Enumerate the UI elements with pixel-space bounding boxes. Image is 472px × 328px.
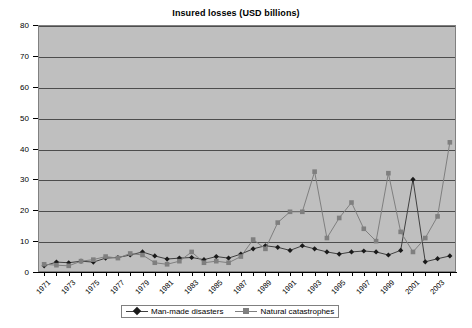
x-tick-mark	[327, 272, 328, 276]
x-tick-label: 1993	[300, 278, 323, 301]
x-tick-label: 1999	[373, 278, 396, 301]
x-tick-mark	[438, 272, 439, 276]
data-point	[324, 249, 329, 254]
data-point	[287, 248, 292, 253]
data-point	[103, 254, 108, 259]
x-tick-label: 1997	[349, 278, 372, 301]
data-point	[54, 263, 59, 268]
x-tick-mark	[265, 272, 266, 276]
x-tick-mark	[352, 272, 353, 276]
data-point	[140, 253, 145, 258]
x-tick-label: 1979	[128, 278, 151, 301]
data-point	[312, 246, 317, 251]
legend-label-natural: Natural catastrophes	[260, 307, 334, 316]
x-tick-mark	[315, 272, 316, 276]
data-point	[337, 216, 342, 221]
y-axis: 01020304050607080	[0, 25, 34, 272]
y-tick-label: 10	[20, 237, 29, 246]
data-point	[374, 239, 379, 244]
data-point	[312, 169, 317, 174]
x-tick-mark	[401, 272, 402, 276]
x-tick-label: 1995	[324, 278, 347, 301]
data-point	[325, 236, 330, 241]
data-point	[165, 262, 170, 267]
data-point	[189, 250, 194, 255]
x-tick-mark	[130, 272, 131, 276]
y-tick-label: 70	[20, 51, 29, 60]
data-point	[300, 243, 305, 248]
data-point	[42, 262, 47, 267]
y-tick-label: 50	[20, 113, 29, 122]
x-tick-mark	[81, 272, 82, 276]
data-point	[79, 259, 84, 264]
x-tick-mark	[229, 272, 230, 276]
data-point	[251, 246, 256, 251]
x-tick-mark	[106, 272, 107, 276]
y-tick-label: 80	[20, 21, 29, 30]
x-tick-mark	[302, 272, 303, 276]
data-point	[66, 264, 71, 269]
data-point	[349, 200, 354, 205]
x-tick-mark	[167, 272, 168, 276]
data-point	[448, 140, 453, 145]
x-tick-mark	[290, 272, 291, 276]
y-tick-label: 40	[20, 144, 29, 153]
x-tick-label: 1987	[226, 278, 249, 301]
diamond-icon	[126, 307, 148, 316]
x-tick-mark	[413, 272, 414, 276]
data-point	[128, 251, 133, 256]
x-tick-mark	[450, 272, 451, 276]
x-tick-mark	[143, 272, 144, 276]
series-line-natural	[44, 142, 450, 266]
legend-item-natural[interactable]: Natural catastrophes	[235, 307, 334, 316]
x-tick-label: 1981	[152, 278, 175, 301]
data-point	[202, 260, 207, 265]
data-point	[91, 257, 96, 262]
data-point	[177, 259, 182, 264]
x-tick-mark	[388, 272, 389, 276]
chart-legend: Man-made disasters Natural catastrophes	[121, 305, 339, 318]
x-tick-mark	[93, 272, 94, 276]
x-tick-label: 1977	[103, 278, 126, 301]
data-point	[411, 250, 416, 255]
x-tick-mark	[216, 272, 217, 276]
data-point	[300, 209, 305, 214]
data-point	[386, 252, 391, 257]
data-point	[251, 237, 256, 242]
data-point	[349, 249, 354, 254]
data-point	[152, 260, 157, 265]
legend-item-man-made[interactable]: Man-made disasters	[126, 307, 223, 316]
x-tick-mark	[364, 272, 365, 276]
data-point	[361, 226, 366, 231]
x-axis-line	[38, 272, 457, 273]
x-tick-label: 1989	[250, 278, 273, 301]
chart-container: Insured losses (USD billions) 0102030405…	[0, 0, 472, 328]
data-point	[116, 256, 121, 261]
data-point	[337, 251, 342, 256]
x-tick-mark	[56, 272, 57, 276]
data-point	[288, 209, 293, 214]
data-point	[152, 253, 157, 258]
x-tick-label: 1975	[78, 278, 101, 301]
x-tick-mark	[425, 272, 426, 276]
data-point	[447, 253, 452, 258]
x-tick-label: 1983	[177, 278, 200, 301]
series-line-man-made	[44, 179, 450, 265]
data-point	[398, 230, 403, 235]
x-tick-label: 2001	[398, 278, 421, 301]
legend-label-man-made: Man-made disasters	[151, 307, 223, 316]
series-layer	[38, 25, 456, 272]
x-tick-mark	[69, 272, 70, 276]
x-tick-mark	[155, 272, 156, 276]
data-point	[435, 214, 440, 219]
x-tick-mark	[278, 272, 279, 276]
x-tick-mark	[118, 272, 119, 276]
x-tick-mark	[192, 272, 193, 276]
data-point	[239, 254, 244, 259]
data-point	[214, 259, 219, 264]
data-point	[410, 177, 415, 182]
x-tick-mark	[339, 272, 340, 276]
chart-title: Insured losses (USD billions)	[0, 8, 472, 18]
data-point	[214, 254, 219, 259]
x-tick-mark	[241, 272, 242, 276]
